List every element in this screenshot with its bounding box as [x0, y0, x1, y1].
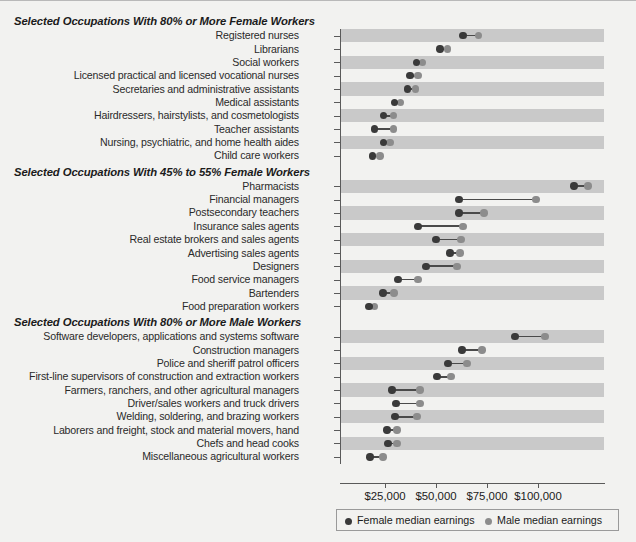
- male-earnings-dot: [412, 85, 419, 92]
- male-earnings-dot: [393, 440, 400, 447]
- group-header: Selected Occupations With 80% or More Fe…: [14, 15, 315, 27]
- male-earnings-dot: [532, 196, 539, 203]
- row-band: [341, 330, 604, 343]
- female-earnings-dot: [455, 209, 462, 216]
- occupation-label: Food preparation workers: [182, 300, 299, 312]
- male-earnings-dot: [379, 453, 386, 460]
- occupation-label: Medical assistants: [215, 96, 299, 108]
- occupation-label: Postsecondary teachers: [189, 206, 299, 218]
- occupation-label: Chefs and head cooks: [197, 437, 299, 449]
- legend-swatch-female: [345, 518, 352, 525]
- female-earnings-dot: [433, 373, 440, 380]
- chart-plot-area: Selected Occupations With 80% or More Fe…: [0, 1, 636, 542]
- female-earnings-dot: [394, 276, 401, 283]
- row-band: [341, 383, 604, 396]
- female-earnings-dot: [388, 386, 395, 393]
- occupation-label: Software developers, applications and sy…: [43, 330, 299, 342]
- male-earnings-dot: [584, 182, 591, 189]
- female-earnings-dot: [432, 236, 439, 243]
- occupation-label: Bartenders: [249, 287, 299, 299]
- group-header: Selected Occupations With 45% to 55% Fem…: [14, 166, 310, 178]
- female-earnings-dot: [446, 249, 453, 256]
- male-earnings-dot: [414, 72, 421, 79]
- occupation-label: Child care workers: [214, 149, 299, 161]
- occupation-label: Advertising sales agents: [188, 247, 299, 259]
- occupation-label: Miscellaneous agricultural workers: [142, 450, 299, 462]
- female-earnings-dot: [369, 152, 376, 159]
- male-earnings-dot: [414, 276, 421, 283]
- male-earnings-dot: [386, 139, 393, 146]
- occupation-label: Licensed practical and licensed vocation…: [74, 69, 299, 81]
- male-earnings-dot: [390, 289, 397, 296]
- row-band: [341, 410, 604, 423]
- male-earnings-dot: [457, 236, 464, 243]
- occupation-label: Registered nurses: [216, 29, 299, 41]
- chart-root: Selected Occupations With 80% or More Fe…: [0, 0, 636, 542]
- occupation-label: Food service managers: [191, 273, 299, 285]
- occupation-label: First-line supervisors of construction a…: [29, 370, 299, 382]
- female-earnings-dot: [371, 125, 378, 132]
- x-axis-tick-label: $50,000: [415, 490, 456, 502]
- female-earnings-dot: [455, 196, 462, 203]
- male-earnings-dot: [376, 152, 383, 159]
- chart-legend: Female median earnings Male median earni…: [336, 509, 619, 531]
- row-band: [341, 437, 604, 450]
- female-earnings-dot: [383, 426, 390, 433]
- occupation-label: Secretaries and administrative assistant…: [113, 83, 299, 95]
- row-band: [341, 56, 604, 69]
- x-axis-tick-label: $25,000: [364, 490, 405, 502]
- occupation-label: Farmers, ranchers, and other agricultura…: [65, 384, 300, 396]
- legend-label-female: Female median earnings: [357, 514, 475, 526]
- female-earnings-dot: [444, 360, 451, 367]
- legend-swatch-male: [485, 518, 492, 525]
- female-earnings-dot: [458, 346, 465, 353]
- occupation-label: Teacher assistants: [214, 123, 299, 135]
- male-earnings-dot: [416, 400, 423, 407]
- x-axis-tick: [385, 483, 386, 488]
- female-earnings-dot: [414, 223, 421, 230]
- occupation-label: Real estate brokers and sales agents: [129, 233, 299, 245]
- row-band: [341, 260, 604, 273]
- occupation-label: Laborers and freight, stock and material…: [53, 424, 299, 436]
- female-earnings-dot: [436, 45, 443, 52]
- row-band: [341, 357, 604, 370]
- legend-label-male: Male median earnings: [497, 514, 602, 526]
- female-earnings-dot: [392, 400, 399, 407]
- female-earnings-dot: [365, 303, 372, 310]
- gap-connector: [418, 225, 463, 227]
- x-axis-tick: [436, 483, 437, 488]
- x-axis-tick-label: $100,000: [514, 490, 562, 502]
- occupation-label: Driver/sales workers and truck drivers: [128, 397, 300, 409]
- female-earnings-dot: [379, 289, 386, 296]
- occupation-label: Nursing, psychiatric, and home health ai…: [100, 136, 299, 148]
- female-earnings-dot: [406, 72, 413, 79]
- male-earnings-dot: [416, 386, 423, 393]
- row-band: [341, 180, 604, 193]
- occupation-label: Pharmacists: [242, 180, 299, 192]
- x-axis-tick-label: $75,000: [466, 490, 507, 502]
- row-band: [341, 82, 604, 95]
- male-earnings-dot: [456, 249, 463, 256]
- occupation-label: Construction managers: [193, 344, 299, 356]
- female-earnings-dot: [366, 453, 373, 460]
- occupation-label: Financial managers: [209, 193, 299, 205]
- female-earnings-dot: [422, 263, 429, 270]
- gap-connector: [459, 199, 536, 201]
- male-earnings-dot: [390, 125, 397, 132]
- occupation-label: Welding, soldering, and brazing workers: [117, 410, 299, 422]
- category-axis-line: [340, 29, 341, 464]
- occupation-label: Police and sheriff patrol officers: [157, 357, 299, 369]
- female-earnings-dot: [511, 333, 518, 340]
- group-header: Selected Occupations With 80% or More Ma…: [14, 316, 301, 328]
- male-earnings-dot: [447, 373, 454, 380]
- female-earnings-dot: [384, 440, 391, 447]
- male-earnings-dot: [393, 426, 400, 433]
- x-axis-tick: [538, 483, 539, 488]
- male-earnings-dot: [541, 333, 548, 340]
- row-band: [341, 233, 604, 246]
- x-axis-tick: [487, 483, 488, 488]
- occupation-label: Social workers: [232, 56, 299, 68]
- occupation-label: Hairdressers, hairstylists, and cosmetol…: [94, 109, 299, 121]
- female-earnings-dot: [391, 99, 398, 106]
- occupation-label: Insurance sales agents: [193, 220, 299, 232]
